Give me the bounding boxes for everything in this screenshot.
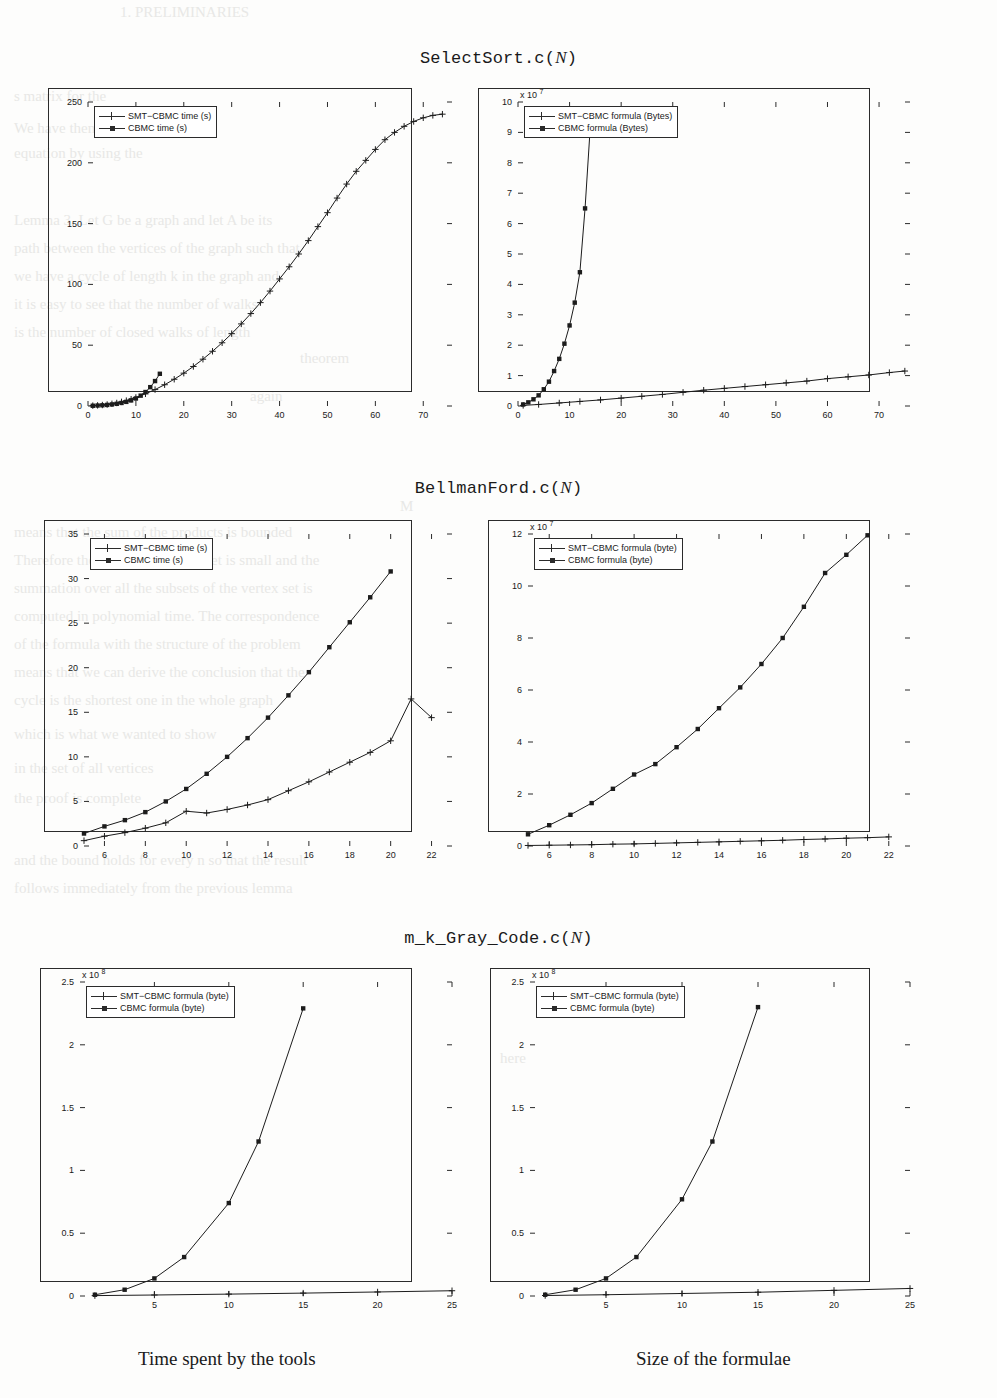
- y-tick-label: 25: [44, 618, 78, 628]
- y-tick-label: 30: [44, 574, 78, 584]
- series-marker-square: [710, 1139, 714, 1143]
- legend-label: CBMC time (s): [121, 555, 183, 565]
- chart-legend[interactable]: SMT−CBMC formula (byte)CBMC formula (byt…: [534, 538, 683, 570]
- series-marker-square: [227, 1201, 231, 1205]
- legend-entry: CBMC formula (byte): [541, 1002, 679, 1014]
- y-tick-label: 1: [40, 1165, 74, 1175]
- series-line: [84, 571, 391, 833]
- series-marker-square: [91, 404, 95, 408]
- chart-bellmanford-time[interactable]: 051015202530356810121416182022SMT−CBMC t…: [44, 520, 460, 868]
- legend-square-marker-icon: [541, 1003, 567, 1013]
- y-tick-label: 6: [488, 685, 522, 695]
- legend-plus-marker-icon: [529, 111, 555, 121]
- series-marker-square: [562, 341, 566, 345]
- x-tick-label: 60: [822, 410, 832, 420]
- x-tick-label: 70: [874, 410, 884, 420]
- x-tick-label: 15: [298, 1300, 308, 1310]
- legend-entry: CBMC formula (byte): [539, 554, 677, 566]
- x-tick-label: 6: [547, 850, 552, 860]
- legend-line: [91, 996, 117, 997]
- legend-line: [99, 116, 125, 117]
- y-tick-label: 1: [490, 1165, 524, 1175]
- bleed-text-line: M: [400, 498, 413, 515]
- chart-legend[interactable]: SMT−CBMC formula (byte)CBMC formula (byt…: [536, 986, 685, 1018]
- x-tick-label: 25: [905, 1300, 915, 1310]
- legend-label: CBMC formula (byte): [565, 555, 653, 565]
- chart-legend[interactable]: SMT−CBMC time (s)CBMC time (s): [94, 106, 217, 138]
- chart-legend[interactable]: SMT−CBMC formula (byte)CBMC formula (byt…: [86, 986, 235, 1018]
- y-tick-label: 200: [48, 158, 82, 168]
- y-tick-label: 2: [488, 789, 522, 799]
- x-tick-label: 18: [345, 850, 355, 860]
- legend-entry: SMT−CBMC formula (byte): [539, 542, 677, 554]
- series-marker-square: [153, 379, 157, 383]
- x-tick-label: 40: [719, 410, 729, 420]
- chart-selectsort-formula[interactable]: 012345678910010203040506070x 10 7SMT−CBM…: [478, 88, 918, 428]
- paren-open: (: [550, 479, 560, 498]
- x-tick-label: 25: [447, 1300, 457, 1310]
- series-marker-square: [115, 402, 119, 406]
- series-marker-square: [780, 636, 784, 640]
- series-marker-square: [102, 824, 106, 828]
- panel-title-selectsort: SelectSort.c(N): [0, 48, 997, 68]
- y-tick-label: 7: [478, 188, 512, 198]
- series-marker-square: [225, 755, 229, 759]
- series-line: [93, 114, 443, 405]
- series-marker-square: [802, 605, 806, 609]
- series-marker-square: [286, 693, 290, 697]
- legend-label: CBMC formula (byte): [117, 1003, 205, 1013]
- chart-graycode-time[interactable]: 00.511.522.5510152025x 10 8SMT−CBMC form…: [40, 968, 460, 1318]
- series-line: [84, 699, 432, 841]
- legend-plus-marker-icon: [539, 543, 565, 553]
- y-tick-label: 35: [44, 529, 78, 539]
- y-tick-label: 1: [478, 371, 512, 381]
- x-tick-label: 22: [884, 850, 894, 860]
- square-icon: [550, 558, 555, 563]
- series-marker-square: [368, 595, 372, 599]
- y-tick-label: 0: [48, 401, 82, 411]
- data-series: [526, 533, 870, 836]
- paren-close: ): [567, 49, 577, 68]
- paren-open: (: [560, 929, 570, 948]
- series-marker-square: [124, 400, 128, 404]
- series-marker-square: [573, 300, 577, 304]
- y-tick-label: 2.5: [490, 977, 524, 987]
- chart-bellmanford-formula[interactable]: 0246810126810121416182022x 10 7SMT−CBMC …: [488, 520, 918, 868]
- y-tick-label: 0.5: [40, 1228, 74, 1238]
- series-marker-square: [245, 736, 249, 740]
- data-series: [92, 1288, 456, 1299]
- x-tick-label: 20: [616, 410, 626, 420]
- chart-legend[interactable]: SMT−CBMC formula (Bytes)CBMC formula (By…: [524, 106, 678, 138]
- panel-title-graycode: m_k_Gray_Code.c(N): [0, 928, 997, 948]
- x-tick-label: 10: [181, 850, 191, 860]
- series-marker-square: [557, 357, 561, 361]
- series-marker-square: [674, 745, 678, 749]
- chart-selectsort-time[interactable]: 050100150200250010203040506070SMT−CBMC t…: [48, 88, 460, 428]
- x-tick-label: 30: [668, 410, 678, 420]
- y-tick-label: 12: [488, 529, 522, 539]
- series-line: [523, 128, 590, 405]
- caption-time: Time spent by the tools: [138, 1348, 316, 1370]
- x-tick-label: 0: [515, 410, 520, 420]
- plot-canvas: [44, 520, 460, 868]
- x-tick-label: 6: [102, 850, 107, 860]
- y-tick-label: 4: [488, 737, 522, 747]
- x-tick-label: 20: [179, 410, 189, 420]
- series-line: [545, 1007, 758, 1295]
- plot-canvas: [48, 88, 460, 428]
- x-tick-label: 10: [131, 410, 141, 420]
- title-variable: N: [571, 928, 583, 947]
- x-tick-label: 5: [152, 1300, 157, 1310]
- y-tick-label: 0: [44, 841, 78, 851]
- chart-graycode-formula[interactable]: 00.511.522.5510152025x 10 8SMT−CBMC form…: [490, 968, 918, 1318]
- series-marker-square: [348, 620, 352, 624]
- y-tick-label: 0: [490, 1291, 524, 1301]
- series-marker-square: [143, 810, 147, 814]
- legend-plus-marker-icon: [91, 991, 117, 1001]
- figure-page: 1. PRELIMINARIESs matrix for theWe have …: [0, 0, 997, 1398]
- legend-entry: SMT−CBMC time (s): [99, 110, 211, 122]
- series-line: [95, 1008, 303, 1294]
- data-series: [91, 372, 162, 408]
- legend-square-marker-icon: [95, 555, 121, 565]
- chart-legend[interactable]: SMT−CBMC time (s)CBMC time (s): [90, 538, 213, 570]
